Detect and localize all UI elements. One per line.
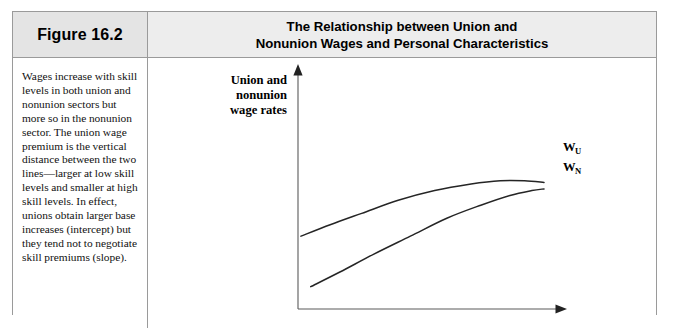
wage-skill-line-chart: Union and nonunion wage rates Skill leve… <box>149 58 656 315</box>
y-axis-label-line-1: Union and <box>231 73 287 87</box>
figure-body: Wages increase with skill levels in both… <box>13 58 656 315</box>
curve-label-nonunion: W N <box>563 160 582 176</box>
figure-caption-column: Wages increase with skill levels in both… <box>13 58 148 328</box>
figure-title-line-1: The Relationship between Union and <box>287 18 518 35</box>
curve-union-wage <box>301 180 544 236</box>
x-axis-arrow-icon <box>556 304 568 313</box>
curve-label-union-sub: U <box>575 146 581 156</box>
figure-number-box: Figure 16.2 <box>13 12 148 57</box>
figure-panel: Figure 16.2 The Relationship between Uni… <box>12 11 657 315</box>
y-axis-label-line-3: wage rates <box>230 103 287 117</box>
curve-label-union: W U <box>563 140 581 156</box>
curve-nonunion-wage <box>311 189 544 287</box>
figure-title-line-2: Nonunion Wages and Personal Characterist… <box>256 35 549 52</box>
figure-header-band: Figure 16.2 The Relationship between Uni… <box>13 12 656 58</box>
figure-plot-area: Union and nonunion wage rates Skill leve… <box>149 58 656 315</box>
figure-number-label: Figure 16.2 <box>37 26 123 44</box>
curve-label-nonunion-sub: N <box>575 166 582 176</box>
figure-title-box: The Relationship between Union and Nonun… <box>148 12 656 57</box>
figure-caption-text: Wages increase with skill levels in both… <box>22 70 140 265</box>
y-axis-label-line-2: nonunion <box>236 88 287 102</box>
y-axis-arrow-icon <box>293 64 302 76</box>
